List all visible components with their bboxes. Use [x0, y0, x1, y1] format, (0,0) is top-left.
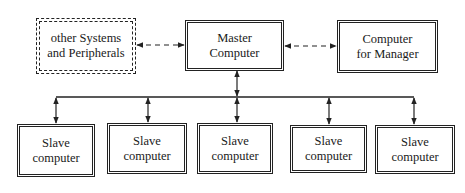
- node-label: Slave computer: [305, 134, 352, 164]
- node-master-computer: Master Computer: [185, 20, 284, 71]
- node-label: Slave computer: [123, 134, 170, 164]
- node-label: Slave computer: [211, 134, 258, 164]
- node-slave-computer-2: Slave computer: [107, 123, 187, 174]
- node-slave-computer-1: Slave computer: [17, 124, 95, 177]
- node-slave-computer-5: Slave computer: [375, 125, 455, 174]
- node-label: Master Computer: [210, 31, 260, 61]
- node-slave-computer-4: Slave computer: [290, 125, 367, 173]
- node-label: Computer for Manager: [356, 32, 418, 62]
- node-slave-computer-3: Slave computer: [197, 123, 273, 174]
- node-other-systems-peripherals: other Systems and Peripherals: [36, 18, 136, 74]
- node-label: Slave computer: [391, 135, 438, 165]
- node-label: other Systems and Peripherals: [47, 31, 124, 61]
- node-computer-for-manager: Computer for Manager: [337, 20, 438, 73]
- node-label: Slave computer: [32, 136, 79, 166]
